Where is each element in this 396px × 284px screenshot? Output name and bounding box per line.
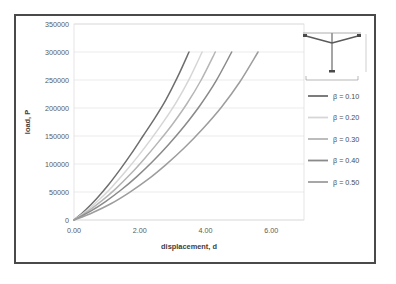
y-tick-labels-group: 0500001000001500002000002500003000003500…: [45, 20, 69, 225]
schematic-cable-right: [332, 36, 358, 43]
y-tick-label: 300000: [45, 48, 69, 57]
schematic-support-left: [303, 34, 307, 37]
y-tick-label: 0: [65, 216, 69, 225]
legend-label: β = 0.50: [333, 178, 359, 187]
cable-mast-schematic: [303, 33, 366, 80]
figure-frame: 0500001000001500002000002500003000003500…: [14, 14, 376, 264]
chart-svg: 0500001000001500002000002500003000003500…: [16, 16, 374, 262]
x-tick-label: 6.00: [264, 226, 278, 235]
legend-label: β = 0.10: [333, 92, 359, 101]
schematic-span-dimension: [306, 76, 358, 80]
x-tick-label: 2.00: [133, 226, 147, 235]
legend-label: β = 0.40: [333, 156, 359, 165]
legend-group: β = 0.10β = 0.20β = 0.30β = 0.40β = 0.50: [308, 92, 359, 187]
schematic-base: [329, 70, 335, 73]
x-tick-label: 0.00: [67, 226, 81, 235]
x-tick-label: 4.00: [198, 226, 212, 235]
chart-area: 0500001000001500002000002500003000003500…: [16, 16, 374, 262]
y-tick-label: 50000: [49, 188, 69, 197]
y-tick-label: 100000: [45, 160, 69, 169]
y-tick-label: 150000: [45, 132, 69, 141]
schematic-cable-left: [306, 36, 332, 43]
y-tick-label: 200000: [45, 104, 69, 113]
legend-label: β = 0.20: [333, 113, 359, 122]
y-axis-title: load, P: [23, 110, 32, 134]
x-tick-labels-group: 0.002.004.006.00: [67, 226, 278, 235]
legend-label: β = 0.30: [333, 135, 359, 144]
schematic-support-right: [357, 34, 361, 37]
x-axis-title: displacement, d: [161, 242, 217, 251]
y-tick-label: 350000: [45, 20, 69, 29]
y-tick-label: 250000: [45, 76, 69, 85]
